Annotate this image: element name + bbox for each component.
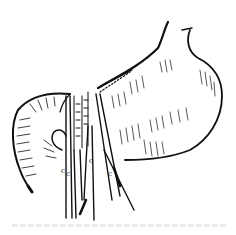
surgical-illustration: c c c c xyxy=(0,0,236,235)
svg-text:c: c xyxy=(66,170,70,178)
suture-line xyxy=(100,72,130,92)
stomach-drawing: c c c c xyxy=(0,0,236,235)
duodenum-hatching xyxy=(17,97,56,176)
svg-text:c: c xyxy=(61,167,65,175)
duodenum-inner-curve xyxy=(52,130,66,150)
svg-text:c: c xyxy=(108,170,112,178)
svg-text:c: c xyxy=(89,157,93,165)
stomach-greater-curvature xyxy=(125,30,222,160)
clamped-tissue xyxy=(74,92,88,150)
stomach-upper-outline xyxy=(98,22,168,88)
surgical-clamps xyxy=(66,94,134,220)
caption-faint xyxy=(12,224,226,227)
